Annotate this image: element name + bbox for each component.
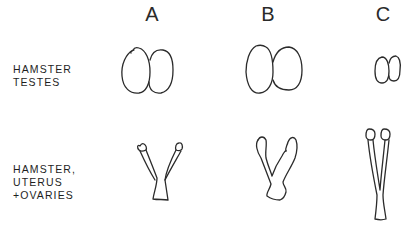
testes-drawing-b: [246, 45, 302, 93]
uterus-drawing-a: [138, 143, 183, 200]
row-label-uterus-line-1: HAMSTER,: [13, 163, 76, 176]
column-header-a: A: [142, 3, 162, 25]
uterus-drawing-b: [257, 137, 298, 200]
row-label-uterus-line-2: UTERUS: [13, 176, 76, 189]
column-header-b: B: [258, 3, 278, 25]
row-label-testes-line-1: HAMSTER: [13, 63, 72, 76]
uterus-drawing-c: [366, 129, 390, 220]
column-header-c: C: [373, 3, 393, 25]
testes-drawing-a: [122, 48, 173, 94]
row-label-uterus-line-3: +OVARIES: [13, 189, 76, 202]
row-label-uterus: HAMSTER, UTERUS +OVARIES: [13, 163, 76, 202]
row-label-testes: HAMSTER TESTES: [13, 63, 72, 89]
row-label-testes-line-2: TESTES: [13, 76, 72, 89]
testes-drawing-c: [375, 56, 400, 83]
